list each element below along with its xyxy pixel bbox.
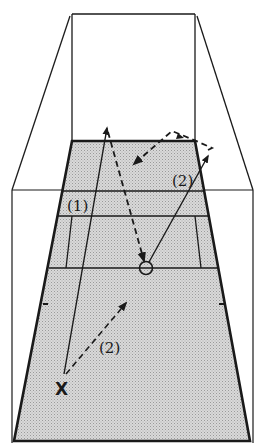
shot-1-label: (1): [67, 197, 88, 215]
player-marker: X: [55, 379, 68, 399]
shot-2-upper-label: (2): [172, 172, 193, 190]
court-floor: [14, 141, 250, 441]
shot-2-lower-label: (2): [99, 339, 120, 357]
court-diagram: (1) (2) (2) X: [0, 0, 264, 445]
